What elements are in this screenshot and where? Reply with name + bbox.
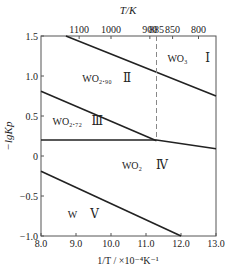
plot-frame xyxy=(41,36,216,236)
region-label: W xyxy=(68,209,78,220)
top-tick-label: 850 xyxy=(165,24,180,35)
axis-labels: 8.09.010.011.012.013.01.51.00.50−0.5−1.0… xyxy=(2,4,225,266)
top-tick-label: 885 xyxy=(149,24,164,35)
y-tick-label: 1.0 xyxy=(26,71,39,82)
y-tick-label: −0.5 xyxy=(20,191,38,202)
x-tick-label: 13.0 xyxy=(207,238,225,249)
region-numeral: Ⅳ xyxy=(156,158,169,172)
boundary-lines xyxy=(41,36,216,236)
region-numeral: Ⅱ xyxy=(123,71,131,85)
x-tick-label: 9.0 xyxy=(70,238,83,249)
boundary-line xyxy=(66,36,216,96)
x-tick-label: 11.0 xyxy=(137,238,154,249)
x-tick-label: 10.0 xyxy=(102,238,120,249)
top-tick-label: 1000 xyxy=(101,24,121,35)
region-numeral: Ⅲ xyxy=(91,114,103,128)
y-tick-label: 1.5 xyxy=(26,31,39,42)
region-labels: WO₃ⅠWO₂.₉₀ⅡWO₂.₇₂ⅢWO₂ⅣWⅤ xyxy=(52,51,210,221)
y-axis-title: −lgKp xyxy=(2,121,14,150)
region-label: WO₂.₉₀ xyxy=(82,73,112,84)
top-axis-title: T/K xyxy=(120,4,137,16)
y-tick-label: −1.0 xyxy=(20,231,38,242)
y-tick-label: 0 xyxy=(33,151,38,162)
region-label: WO₃ xyxy=(167,53,187,64)
region-numeral: Ⅰ xyxy=(205,51,210,65)
top-tick-label: 800 xyxy=(191,24,206,35)
x-axis-title: 1/T / ×10⁻⁴K⁻¹ xyxy=(97,255,158,266)
region-label: WO₂.₇₂ xyxy=(52,116,82,127)
x-tick-label: 12.0 xyxy=(172,238,190,249)
phase-diagram-chart: WO₃ⅠWO₂.₉₀ⅡWO₂.₇₂ⅢWO₂ⅣWⅤ 8.09.010.011.01… xyxy=(0,0,232,276)
y-tick-label: 0.5 xyxy=(26,111,39,122)
region-label: WO₂ xyxy=(122,160,142,171)
region-numeral: Ⅴ xyxy=(89,207,99,221)
plot-axes xyxy=(41,36,216,236)
boundary-line xyxy=(41,171,181,236)
top-tick-label: 1100 xyxy=(69,24,89,35)
boundary-line xyxy=(41,140,216,149)
